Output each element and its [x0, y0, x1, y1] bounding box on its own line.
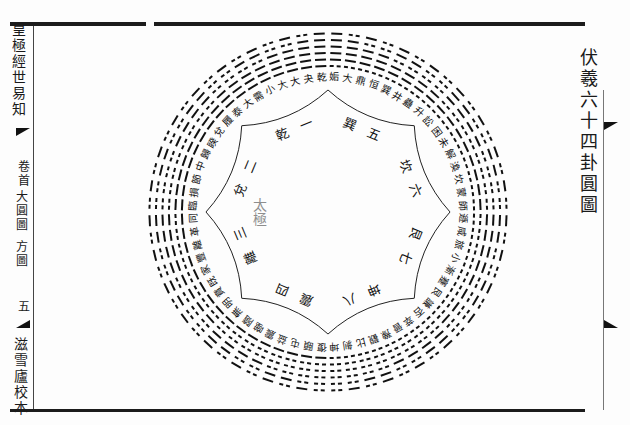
hexagram: 臨: [149, 198, 198, 211]
hexagram: 同: [149, 213, 198, 226]
hexagram-name: 大: [289, 74, 302, 88]
hexagram: 未: [437, 116, 484, 150]
hexagram: 恒: [367, 42, 393, 92]
hexagram-name: 豫: [379, 327, 393, 342]
hexagram: 乾: [314, 33, 327, 82]
hexagram: 解: [443, 131, 492, 161]
hexagram-name: 萃: [401, 313, 416, 328]
hexagram-name: 剝: [342, 339, 354, 351]
hexagram: 晉: [390, 321, 424, 368]
trigram-sector-label: 震 四: [273, 280, 315, 309]
trigram-sector-label: 巽 五: [341, 115, 383, 144]
hexagram-name: 大: [342, 71, 354, 84]
hexagram-name: 中: [193, 160, 208, 173]
hexagram-name: 觀: [367, 332, 380, 346]
hexagram-name: 乾: [316, 70, 327, 82]
hexagram: 觀: [367, 332, 393, 382]
trigram-sector-label: 艮 七: [396, 225, 425, 267]
trigram-sector-label: 坎 六: [396, 157, 425, 199]
hexagram-name: 解: [443, 147, 458, 161]
hexagram: 坤: [329, 341, 342, 390]
hexagram-name: 復: [316, 341, 327, 353]
hexagram: 震: [247, 327, 277, 376]
hexagram: 豫: [379, 327, 409, 376]
hexagram: 姤: [329, 33, 342, 82]
hexagram: 中: [158, 147, 208, 173]
hexagram-name: 未: [437, 135, 452, 149]
center-taiji-mark: 太極: [251, 198, 267, 226]
hexagram-name: 姤: [329, 71, 340, 82]
hexagram-name: 小: [263, 83, 277, 97]
hexagram-name: 屯: [289, 336, 302, 350]
hexagram-name: 渙: [448, 160, 462, 173]
hexagram-name: 歸: [198, 147, 213, 161]
hexagram-name: 革: [187, 226, 200, 238]
hexagram-name: 恒: [367, 77, 380, 92]
hexagram-name: 坎: [452, 173, 466, 186]
hexagram-name: 損: [187, 186, 200, 198]
hexagram-name: 需: [251, 89, 265, 104]
hexagram-name: 咸: [455, 226, 467, 238]
hexagram-name: 坤: [329, 341, 340, 353]
hexagram-name: 蒙: [455, 186, 468, 198]
trigram-sector-label: 乾 一: [273, 115, 315, 144]
hexagram: 既: [172, 274, 219, 308]
hexagram-name: 夬: [302, 71, 314, 84]
hexagram: 師: [457, 198, 506, 211]
hexagram-name: 豐: [193, 251, 208, 264]
hexagram-name: 旅: [452, 239, 466, 252]
hexagram: 復: [314, 341, 327, 390]
hexagram-name: 大: [276, 77, 289, 92]
hexagram-name: 師: [457, 200, 469, 211]
trigram-sector-label: 離 三: [231, 225, 260, 267]
hexagram: 需: [232, 56, 266, 103]
hexagram-name: 漸: [443, 263, 457, 277]
hexagram-name: 小: [448, 251, 462, 264]
hexagram-name: 既: [205, 274, 220, 288]
hexagram-name: 困: [429, 124, 444, 139]
hexagram-name: 節: [190, 173, 204, 186]
hexagram-name: 同: [187, 213, 198, 224]
hexagram: 歸: [164, 131, 213, 161]
hexagram: 大: [263, 42, 289, 92]
hexagram: 渙: [448, 147, 498, 173]
hexagram-name: 頤: [302, 339, 314, 351]
hexagram-name: 家: [198, 263, 213, 277]
hexagram-name: 睽: [205, 135, 220, 149]
hexagram-name: 鼎: [355, 74, 367, 87]
scanned-page: 皇極經世易知 卷首 大圓圖 方圖 五 滋雪廬校本 伏羲六十四卦圓圖 乾夬大大小需…: [0, 0, 630, 425]
hexagram-circle-diagram: 乾夬大大小需大泰履兌睽歸中節損臨同革離豐家既賁明無隨噬震益屯頤復姤大鼎恒巽井蠱升…: [0, 0, 630, 425]
trigram-sector-label: 兌 二: [231, 157, 260, 199]
hexagram-name: 晉: [390, 321, 404, 336]
hexagram: 小: [448, 251, 498, 277]
hexagram-name: 益: [276, 332, 289, 347]
hexagram: 遯: [457, 213, 506, 226]
hexagram-name: 比: [355, 336, 367, 349]
trigram-sector-label: 坤 八: [341, 280, 383, 309]
hexagram-name: 離: [190, 239, 204, 252]
hexagram-name: 遯: [457, 213, 468, 224]
hexagram: 益: [263, 332, 289, 382]
hexagram-name: 臨: [186, 200, 198, 211]
hexagram-name: 震: [263, 327, 277, 341]
hexagram-name: 巽: [379, 83, 393, 97]
hexagram: 豐: [158, 251, 208, 277]
